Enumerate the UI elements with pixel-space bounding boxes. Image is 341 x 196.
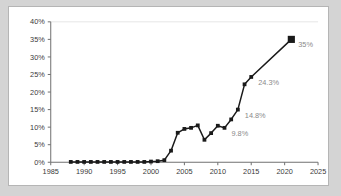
series-marker — [183, 127, 187, 131]
x-tick-label: 1995 — [109, 167, 125, 176]
y-tick-label: 25% — [30, 70, 45, 79]
series-marker — [216, 124, 220, 128]
series-marker — [89, 160, 93, 164]
series-marker — [196, 124, 200, 128]
series-marker — [96, 160, 100, 164]
series-marker — [116, 160, 120, 164]
y-tick-label: 40% — [30, 18, 45, 27]
series-markers — [69, 36, 295, 164]
y-axis-ticks: 0%5%10%15%20%25%30%35%40% — [30, 18, 51, 167]
data-label: 14.8% — [245, 111, 266, 120]
x-tick-label: 2015 — [243, 167, 259, 176]
chart-frame: 0%5%10%15%20%25%30%35%40% 19851990199520… — [8, 6, 329, 186]
series-marker — [156, 159, 160, 163]
y-tick-label: 0% — [34, 158, 45, 167]
y-tick-label: 30% — [30, 53, 45, 62]
x-tick-label: 2020 — [276, 167, 292, 176]
series-marker — [149, 160, 153, 164]
x-tick-label: 2000 — [143, 167, 159, 176]
series-marker — [102, 160, 106, 164]
series-line — [71, 39, 292, 162]
series-marker — [82, 160, 86, 164]
series-marker — [76, 160, 80, 164]
series-marker — [169, 149, 173, 153]
data-label: 24.3% — [258, 78, 279, 87]
series-end-marker — [288, 36, 295, 43]
series-marker — [176, 131, 180, 135]
series-marker — [69, 160, 73, 164]
y-tick-label: 20% — [30, 88, 45, 97]
line-chart: 0%5%10%15%20%25%30%35%40% 19851990199520… — [9, 7, 328, 185]
series-marker — [129, 160, 133, 164]
y-tick-label: 35% — [30, 35, 45, 44]
y-tick-label: 15% — [30, 105, 45, 114]
y-tick-label: 5% — [34, 140, 45, 149]
series-marker — [229, 118, 233, 122]
x-tick-label: 1985 — [43, 167, 59, 176]
x-tick-label: 1990 — [76, 167, 92, 176]
series-marker — [136, 160, 140, 164]
x-axis-ticks: 198519901995200020052010201520202025 — [43, 162, 327, 176]
series-marker — [162, 158, 166, 162]
x-tick-label: 2010 — [210, 167, 226, 176]
series-marker — [249, 75, 253, 79]
series-marker — [109, 160, 113, 164]
series-marker — [209, 131, 213, 135]
series-marker — [142, 160, 146, 164]
x-tick-label: 2025 — [310, 167, 326, 176]
x-tick-label: 2005 — [176, 167, 192, 176]
series-marker — [189, 126, 193, 130]
series-marker — [203, 138, 207, 142]
data-label: 35% — [298, 40, 313, 49]
y-tick-label: 10% — [30, 123, 45, 132]
series-marker — [223, 126, 227, 130]
series-marker — [122, 160, 126, 164]
series-marker — [243, 82, 247, 86]
series-marker — [236, 108, 240, 112]
data-label: 9.8% — [231, 129, 248, 138]
